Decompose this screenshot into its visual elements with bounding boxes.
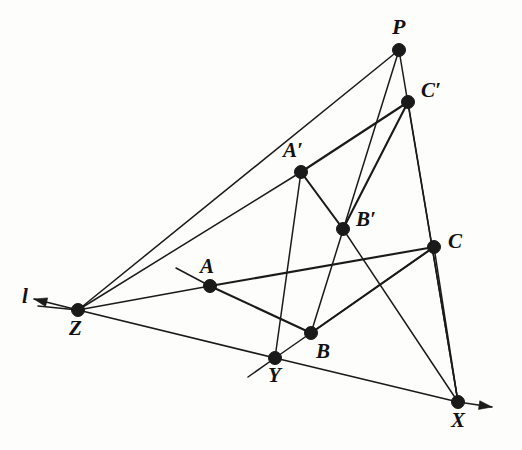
segment-Y-C [275, 247, 434, 358]
segment-C-X [434, 247, 458, 402]
line-l-arrow-right [478, 401, 492, 410]
point-C[interactable] [428, 241, 441, 254]
figure-canvas [0, 0, 522, 450]
point-B[interactable] [305, 327, 318, 340]
segment-Ap-Bp [301, 172, 343, 229]
segment-Ap-Y-extend [275, 172, 301, 358]
point-label-Bp: B′ [356, 209, 376, 230]
point-Bp[interactable] [337, 223, 350, 236]
segment-A-C [210, 247, 434, 286]
segment-Ap-Cp [301, 102, 408, 172]
line-l-arrow-left [34, 298, 48, 307]
point-Cp[interactable] [402, 96, 415, 109]
point-P[interactable] [393, 44, 406, 57]
segment-A-B [210, 286, 311, 333]
point-label-C: C [448, 231, 462, 252]
desargues-figure: PC′A′B′CAZBYXl [0, 0, 522, 450]
point-Z[interactable] [72, 304, 85, 317]
point-X[interactable] [452, 396, 465, 409]
segment-P-Bp-B [311, 50, 399, 333]
point-label-X: X [451, 410, 465, 431]
point-label-P: P [392, 16, 405, 38]
line-l [34, 299, 492, 407]
line-label-l: l [22, 286, 28, 307]
point-label-B: B [316, 341, 330, 362]
point-label-Cp: C′ [421, 80, 441, 101]
point-label-Ap: A′ [283, 140, 303, 161]
point-label-Y: Y [268, 365, 281, 386]
point-label-A: A [200, 256, 214, 277]
point-label-Z: Z [69, 318, 82, 339]
point-A[interactable] [204, 280, 217, 293]
segment-Bp-X [343, 229, 458, 402]
point-Ap[interactable] [295, 166, 308, 179]
segment-P-A-Z [78, 50, 399, 310]
